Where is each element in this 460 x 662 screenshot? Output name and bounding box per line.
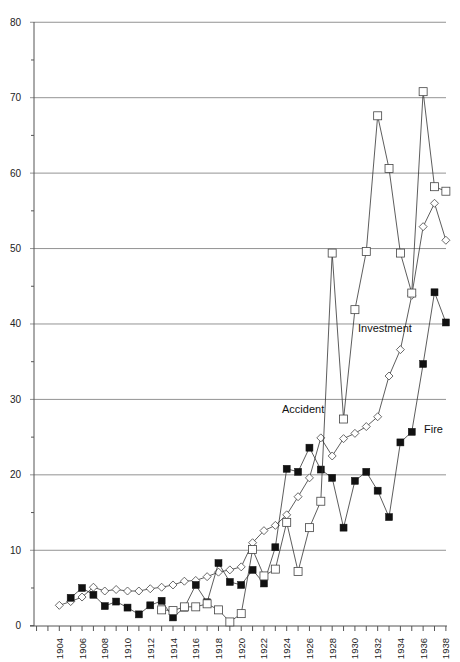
open-square-marker	[203, 600, 211, 608]
series-line	[162, 92, 446, 622]
diamond-marker	[169, 581, 177, 589]
diamond-marker	[340, 435, 348, 443]
filled-square-marker	[238, 581, 245, 588]
diamond-marker	[124, 587, 132, 595]
filled-square-marker	[124, 604, 131, 611]
open-square-marker	[442, 187, 450, 195]
filled-square-marker	[420, 360, 427, 367]
x-tick-label: 1934	[395, 638, 406, 659]
open-square-marker	[214, 606, 222, 614]
filled-square-marker	[317, 466, 324, 473]
diamond-marker	[385, 372, 393, 380]
diamond-marker	[112, 585, 120, 593]
open-square-marker	[260, 572, 268, 580]
diamond-marker	[203, 573, 211, 581]
y-tick-label: 80	[10, 17, 22, 28]
diamond-marker	[226, 566, 234, 574]
y-tick-label: 60	[10, 168, 22, 179]
open-square-marker	[249, 546, 257, 554]
open-square-marker	[271, 565, 279, 573]
diamond-marker	[442, 236, 450, 244]
filled-square-marker	[329, 474, 336, 481]
gridlines	[30, 22, 446, 550]
series-investment	[158, 88, 450, 626]
diamond-marker	[237, 563, 245, 571]
filled-square-marker	[67, 594, 74, 601]
y-tick-label: 10	[10, 545, 22, 556]
series-label-fire: Fire	[424, 423, 443, 435]
x-tick-label: 1908	[99, 638, 110, 659]
filled-square-marker	[397, 439, 404, 446]
diamond-marker	[351, 429, 359, 437]
x-tick-label: 1904	[54, 638, 65, 659]
filled-square-marker	[158, 597, 165, 604]
y-tick-label: 30	[10, 394, 22, 405]
x-tick-label: 1918	[213, 638, 224, 659]
filled-square-marker	[226, 578, 233, 585]
y-tick-label: 70	[10, 92, 22, 103]
filled-square-marker	[283, 465, 290, 472]
filled-square-marker	[79, 584, 86, 591]
open-square-marker	[180, 603, 188, 611]
x-tick-label: 1938	[440, 638, 451, 659]
open-square-marker	[431, 183, 439, 191]
open-square-marker	[419, 88, 427, 96]
open-square-marker	[362, 248, 370, 256]
x-axis-ticks: 1904190619081910191219141916191819201922…	[37, 626, 452, 659]
x-tick-label: 1928	[327, 638, 338, 659]
x-tick-label: 1926	[304, 638, 315, 659]
x-tick-label: 1936	[418, 638, 429, 659]
series-fire	[67, 289, 449, 621]
open-square-marker	[374, 112, 382, 120]
diamond-marker	[158, 583, 166, 591]
y-tick-label: 20	[10, 469, 22, 480]
filled-square-marker	[113, 598, 120, 605]
x-tick-label: 1914	[168, 638, 179, 659]
open-square-marker	[169, 607, 177, 615]
filled-square-marker	[431, 289, 438, 296]
diamond-marker	[396, 346, 404, 354]
open-square-marker	[328, 249, 336, 257]
diamond-marker	[55, 601, 63, 609]
line-chart: 01020304050607080 1904190619081910191219…	[0, 0, 460, 662]
filled-square-marker	[272, 544, 279, 551]
filled-square-marker	[215, 560, 222, 567]
open-square-marker	[317, 497, 325, 505]
open-square-marker	[158, 606, 166, 614]
diamond-marker	[328, 452, 336, 460]
x-tick-label: 1906	[77, 638, 88, 659]
open-square-marker	[396, 249, 404, 257]
open-square-marker	[351, 306, 359, 314]
filled-square-marker	[135, 611, 142, 618]
x-tick-label: 1912	[145, 638, 156, 659]
open-square-marker	[305, 524, 313, 532]
y-tick-label: 40	[10, 318, 22, 329]
diamond-marker	[101, 587, 109, 595]
x-tick-label: 1922	[258, 638, 269, 659]
open-square-marker	[340, 415, 348, 423]
diamond-marker	[135, 587, 143, 595]
open-square-marker	[192, 603, 200, 611]
filled-square-marker	[363, 468, 370, 475]
filled-square-marker	[340, 524, 347, 531]
diamond-marker	[180, 577, 188, 585]
series-line	[71, 292, 446, 617]
filled-square-marker	[374, 487, 381, 494]
filled-square-marker	[192, 581, 199, 588]
open-square-marker	[283, 518, 291, 526]
open-square-marker	[294, 567, 302, 575]
x-tick-label: 1924	[281, 638, 292, 659]
series-label-investment: Investment	[358, 322, 412, 334]
open-square-marker	[237, 610, 245, 618]
filled-square-marker	[386, 514, 393, 521]
filled-square-marker	[408, 428, 415, 435]
open-square-marker	[408, 289, 416, 297]
series-label-accident: Accident	[282, 403, 324, 415]
filled-square-marker	[295, 468, 302, 475]
filled-square-marker	[306, 444, 313, 451]
open-square-marker	[385, 165, 393, 173]
diamond-marker	[294, 493, 302, 501]
diamond-marker	[146, 585, 154, 593]
x-tick-label: 1916	[190, 638, 201, 659]
diamond-marker	[431, 199, 439, 207]
